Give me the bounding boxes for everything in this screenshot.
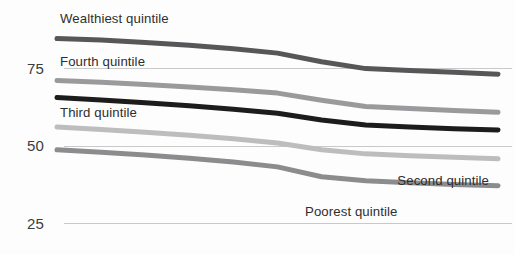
series-label-wealthiest-quintile: Wealthiest quintile [60,11,169,26]
y-tick-label-50: 50 [27,137,44,154]
series-label-poorest-quintile: Poorest quintile [305,204,398,219]
y-tick-label-75: 75 [27,60,44,77]
series-label-second-quintile: Second quintile [397,173,489,188]
chart-container: 255075 Wealthiest quintileFourth quintil… [0,0,515,255]
y-tick-label-25: 25 [27,215,44,232]
series-label-fourth-quintile: Fourth quintile [60,54,145,69]
series-label-third-quintile: Third quintile [60,105,137,120]
quintile-line-chart: 255075 Wealthiest quintileFourth quintil… [0,0,515,255]
